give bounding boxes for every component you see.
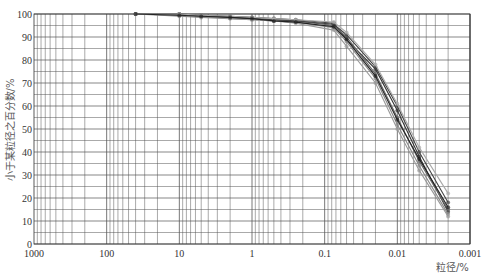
data-point	[446, 191, 450, 195]
data-point	[395, 127, 399, 131]
data-point	[373, 81, 377, 85]
data-point	[417, 168, 421, 172]
data-point	[294, 20, 298, 24]
data-point	[345, 37, 349, 41]
x-tick-label: 10	[174, 248, 184, 259]
y-tick-label: 80	[22, 55, 32, 66]
x-tick-label: 0.1	[318, 248, 331, 259]
y-tick-label: 50	[22, 124, 32, 135]
grid-lines	[34, 14, 470, 244]
data-point	[332, 25, 336, 29]
data-point	[446, 214, 450, 218]
y-tick-label: 10	[22, 216, 32, 227]
data-point	[250, 17, 254, 21]
y-tick-label: 100	[17, 9, 32, 20]
x-tick-label: 0.01	[389, 248, 407, 259]
data-point	[417, 157, 421, 161]
data-point	[272, 19, 276, 23]
data-point	[373, 74, 377, 78]
y-tick-label: 30	[22, 170, 32, 181]
y-tick-label: 70	[22, 78, 32, 89]
data-point	[395, 102, 399, 106]
x-tick-label: 1000	[24, 248, 44, 259]
data-point	[446, 205, 450, 209]
grain-size-distribution-chart: 010203040506070809010010001001010.10.010…	[0, 0, 491, 277]
data-point	[199, 14, 203, 18]
data-point	[228, 15, 232, 19]
x-tick-label: 100	[99, 248, 114, 259]
data-series	[134, 12, 451, 218]
data-point	[395, 118, 399, 122]
x-axis-title: 粒径/%	[436, 261, 469, 273]
x-tick-label: 1	[250, 248, 255, 259]
data-point	[332, 20, 336, 24]
axis-ticks: 010203040506070809010010001001010.10.010…	[17, 9, 481, 260]
y-tick-label: 40	[22, 147, 32, 158]
y-axis-title: 小于某粒径之百分数/%	[4, 79, 16, 182]
data-point	[345, 30, 349, 34]
data-point	[373, 63, 377, 67]
x-tick-label: 0.001	[459, 248, 482, 259]
data-point	[417, 145, 421, 149]
y-tick-label: 90	[22, 32, 32, 43]
y-tick-label: 20	[22, 193, 32, 204]
data-point	[345, 44, 349, 48]
data-point	[134, 12, 138, 16]
data-point	[177, 13, 181, 17]
y-tick-label: 60	[22, 101, 32, 112]
